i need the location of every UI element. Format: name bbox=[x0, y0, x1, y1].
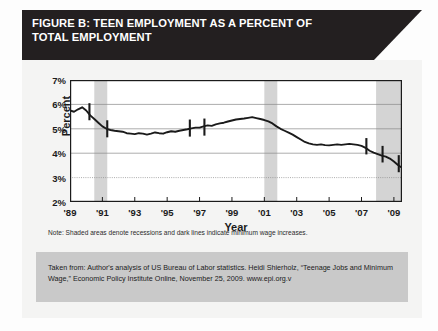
x-tick-label: '97 bbox=[193, 207, 206, 218]
y-tick-label: 4% bbox=[52, 148, 66, 159]
x-tick-label: '07 bbox=[355, 207, 368, 218]
x-tick-label: '91 bbox=[96, 207, 109, 218]
x-tick-label: '89 bbox=[64, 207, 77, 218]
figure-page: FIGURE B: TEEN EMPLOYMENT AS A PERCENT O… bbox=[0, 0, 438, 331]
recession-band bbox=[264, 80, 277, 202]
citation-box: Taken from: Author's analysis of US Bure… bbox=[36, 252, 408, 302]
x-tick-label: '93 bbox=[128, 207, 141, 218]
recession-band bbox=[94, 80, 107, 202]
line-chart-svg bbox=[70, 80, 402, 202]
x-tick-label: '03 bbox=[290, 207, 303, 218]
data-line bbox=[70, 107, 402, 168]
x-tick-label: '01 bbox=[258, 207, 271, 218]
y-tick-label: 7% bbox=[52, 75, 66, 86]
x-tick-label: '05 bbox=[323, 207, 336, 218]
y-tick-label: 2% bbox=[52, 197, 66, 208]
y-tick-label: 6% bbox=[52, 99, 66, 110]
citation-text: Taken from: Author's analysis of US Bure… bbox=[48, 262, 398, 284]
figure-title: FIGURE B: TEEN EMPLOYMENT AS A PERCENT O… bbox=[32, 16, 332, 44]
y-tick-label: 3% bbox=[52, 172, 66, 183]
figure-card: Percent 2%3%4%5%6%7% '89'91'93'95'97'99'… bbox=[22, 60, 422, 318]
recession-band bbox=[376, 80, 402, 202]
chart-note: Note: Shaded areas denote recessions and… bbox=[48, 228, 404, 237]
chart-area: Percent 2%3%4%5%6%7% '89'91'93'95'97'99'… bbox=[70, 80, 402, 202]
y-tick-label: 5% bbox=[52, 123, 66, 134]
x-tick-label: '95 bbox=[161, 207, 174, 218]
x-tick-label: '99 bbox=[226, 207, 239, 218]
figure-banner: FIGURE B: TEEN EMPLOYMENT AS A PERCENT O… bbox=[22, 10, 422, 60]
plot-panel bbox=[70, 80, 402, 202]
x-tick-label: '09 bbox=[387, 207, 400, 218]
plot-frame bbox=[71, 81, 402, 202]
